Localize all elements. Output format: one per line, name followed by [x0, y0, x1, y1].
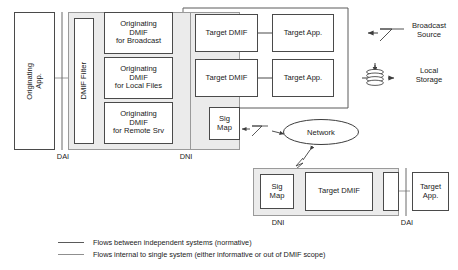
- originating-app-label: Originating App.: [26, 63, 44, 100]
- broadcast-source-label: Broadcast Source: [402, 21, 456, 39]
- legend-item-normative: Flows between independent systems (norma…: [58, 238, 252, 247]
- remote-target-dmif-box[interactable]: Target DMIF: [305, 172, 373, 211]
- remote-dmif-filter-box[interactable]: [383, 172, 399, 211]
- legend-normative-text: Flows between independent systems (norma…: [93, 238, 252, 247]
- dmif-filter-box[interactable]: DMIF Filter: [74, 18, 94, 144]
- remote-target-app-label: Target App.: [420, 183, 441, 201]
- originating-dmif-broadcast-box[interactable]: Originating DMIF for Broadcast: [104, 12, 173, 54]
- target-dmif-broadcast-box[interactable]: Target DMIF: [195, 14, 258, 52]
- remote-sig-map-label: Sig Map: [270, 183, 285, 201]
- dni-tag-remote: DNI: [267, 218, 289, 227]
- broadcast-source-link: [368, 29, 404, 41]
- local-storage-label: Local Storage: [402, 66, 456, 84]
- originating-dmif-remote-srv-box[interactable]: Originating DMIF for Remote Srv: [104, 102, 173, 144]
- sig-map-box[interactable]: Sig Map: [209, 107, 240, 140]
- disk-stack-icon: [365, 68, 387, 90]
- signal-map-network-link: [242, 126, 284, 136]
- target-dmif-local-label: Target DMIF: [206, 74, 248, 83]
- target-dmif-broadcast-label: Target DMIF: [206, 29, 248, 38]
- target-app-broadcast-label: Target App.: [284, 29, 322, 38]
- target-app-local-box[interactable]: Target App.: [272, 59, 334, 97]
- dmif-filter-label: DMIF Filter: [80, 62, 89, 100]
- legend-internal-text: Flows internal to single system (either …: [93, 250, 325, 259]
- remote-target-dmif-label: Target DMIF: [318, 187, 360, 196]
- target-dmif-local-box[interactable]: Target DMIF: [195, 59, 258, 97]
- originating-dmif-broadcast-label: Originating DMIF for Broadcast: [116, 20, 161, 47]
- originating-dmif-local-files-label: Originating DMIF for Local Files: [115, 65, 162, 92]
- dni-tag-top: DNI: [175, 152, 197, 161]
- originating-app-box[interactable]: Originating App.: [14, 12, 55, 150]
- sig-map-label: Sig Map: [217, 115, 232, 133]
- legend-item-internal: Flows internal to single system (either …: [58, 250, 325, 259]
- originating-dmif-local-files-box[interactable]: Originating DMIF for Local Files: [104, 57, 173, 99]
- legend-line-normative-icon: [58, 242, 84, 243]
- network-label: Network: [282, 128, 360, 137]
- dmif-architecture-diagram: Originating App. DMIF Filter Originating…: [0, 0, 458, 270]
- dai-tag-left: DAI: [52, 152, 74, 161]
- remote-target-app-box[interactable]: Target App.: [412, 172, 449, 211]
- remote-sig-map-box[interactable]: Sig Map: [260, 174, 294, 209]
- dai-tag-remote: DAI: [396, 218, 418, 227]
- target-app-local-label: Target App.: [284, 74, 322, 83]
- originating-dmif-remote-srv-label: Originating DMIF for Remote Srv: [113, 110, 164, 137]
- target-app-broadcast-box[interactable]: Target App.: [272, 14, 334, 52]
- legend-line-internal-icon: [58, 254, 84, 255]
